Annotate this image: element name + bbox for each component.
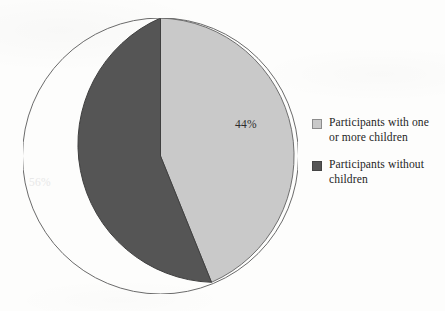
pie-chart-graphic: [23, 18, 298, 294]
legend-label-line-1: Participants with one: [329, 116, 429, 129]
pie-label-with-children: 44%: [235, 118, 257, 130]
legend-label-line-2: children: [329, 173, 368, 186]
legend-label-with-children: Participants with one or more children: [329, 116, 429, 145]
legend-label-line-2: or more children: [329, 131, 408, 144]
legend-swatch-icon-without-children: [312, 161, 322, 171]
legend-item-with-children[interactable]: Participants with one or more children: [312, 116, 444, 145]
legend-swatch-icon-with-children: [312, 119, 322, 129]
legend-label-without-children: Participants without children: [329, 158, 424, 187]
chart-legend: Participants with one or more children P…: [312, 116, 444, 200]
pie-chart-figure: 44% 56% Participants with one or more ch…: [0, 0, 445, 311]
pie-svg: [23, 18, 298, 294]
legend-item-without-children[interactable]: Participants without children: [312, 158, 444, 187]
legend-label-line-1: Participants without: [329, 158, 424, 171]
pie-label-without-children: 56%: [29, 176, 51, 188]
